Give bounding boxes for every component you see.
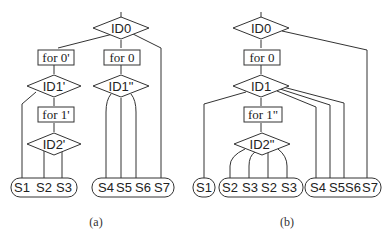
- statement-label: S5: [329, 180, 345, 195]
- statement-label: S4: [98, 180, 114, 195]
- loop-label: for 1': [42, 107, 69, 122]
- statement-label: S2: [222, 180, 238, 195]
- loop-label: for 0: [110, 50, 135, 65]
- control-flow-diagrams: ID0 for 0' for 0 ID1' ID1" for 1' ID2' S…: [0, 0, 392, 240]
- statement-label: S6: [135, 180, 151, 195]
- loop-label: for 0: [250, 50, 275, 65]
- loop-label: for 0': [42, 50, 69, 65]
- statement-label: S6: [345, 180, 361, 195]
- diagram-b: ID0 for 0 ID1 for 1" ID2" S1 S2 S3 S2 S3…: [193, 12, 381, 229]
- statement-label: S2: [36, 180, 52, 195]
- statement-label: S3: [242, 180, 258, 195]
- statement-label: S3: [281, 180, 297, 195]
- decision-label: ID1": [109, 79, 134, 94]
- statement-label: S1: [196, 180, 212, 195]
- diagram-a: ID0 for 0' for 0 ID1' ID1" for 1' ID2' S…: [11, 12, 174, 229]
- decision-label: ID2': [43, 137, 66, 152]
- decision-label: ID0: [251, 21, 271, 36]
- statement-label: S7: [362, 180, 378, 195]
- statement-label: S1: [14, 180, 30, 195]
- decision-label: ID1: [251, 79, 271, 94]
- decision-label: ID2": [250, 137, 275, 152]
- caption-b: (b): [280, 215, 294, 229]
- loop-label: for 1": [248, 107, 278, 122]
- decision-label: ID1': [43, 79, 66, 94]
- caption-a: (a): [89, 215, 102, 229]
- statement-label: S4: [310, 180, 326, 195]
- statement-label: S2: [261, 180, 277, 195]
- statement-label: S5: [116, 180, 132, 195]
- statement-label: S3: [56, 180, 72, 195]
- decision-label: ID0: [111, 21, 131, 36]
- statement-label: S7: [154, 180, 170, 195]
